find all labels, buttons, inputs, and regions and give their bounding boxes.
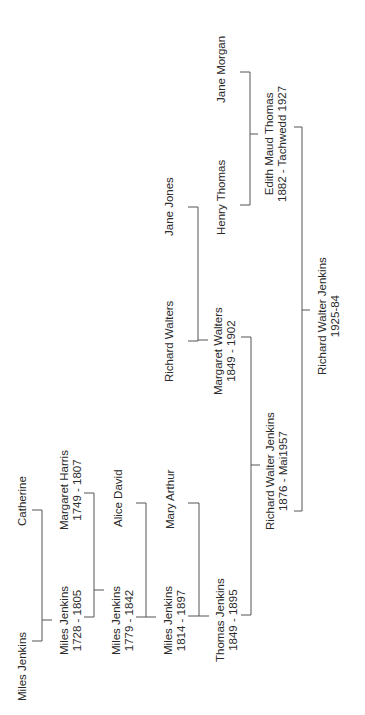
person-name: Richard Walter Jenkins — [264, 412, 277, 530]
person-name: Henry Thomas — [215, 160, 228, 235]
person-dates: 1849 - 1895 — [227, 578, 240, 662]
person-p2: Catherine — [16, 476, 29, 526]
person-name: Richard Walter Jenkins — [316, 257, 329, 375]
person-name: Catherine — [16, 476, 29, 526]
person-p11: Jane Jones — [163, 177, 176, 236]
person-name: Miles Jenkins — [162, 586, 175, 655]
person-dates: 1849 - 1902 — [225, 307, 238, 395]
person-p3: Miles Jenkins 1728 - 1805 — [58, 586, 84, 655]
person-dates: 1728 - 1805 — [71, 586, 84, 655]
person-dates: 1925-84 — [329, 257, 342, 375]
person-p13: Richard Walter Jenkins 1876 - Mai1957 — [264, 412, 290, 530]
family-tree-diagram: Miles Jenkins Catherine Miles Jenkins 17… — [0, 0, 365, 715]
person-p14: Henry Thomas — [215, 160, 228, 235]
person-p8: Mary Arthur — [164, 470, 177, 529]
person-p5: Miles Jenkins 1779 - 1842 — [110, 586, 136, 655]
person-p6: Alice David — [112, 469, 125, 527]
person-p17: Richard Walter Jenkins 1925-84 — [316, 257, 342, 375]
person-name: Miles Jenkins — [16, 632, 29, 701]
person-dates: 1876 - Mai1957 — [277, 412, 290, 530]
person-p16: Edith Maud Thomas 1882 - Tachwedd 1927 — [263, 86, 289, 202]
person-name: Margaret Harris — [58, 450, 71, 530]
person-p12: Margaret Walters 1849 - 1902 — [212, 307, 238, 395]
person-p15: Jane Morgan — [215, 36, 228, 103]
person-name: Miles Jenkins — [110, 586, 123, 655]
person-name: Alice David — [112, 469, 125, 527]
person-p10: Richard Walters — [163, 301, 176, 382]
person-name: Margaret Walters — [212, 307, 225, 395]
person-p4: Margaret Harris 1749 - 1807 — [58, 450, 84, 530]
person-name: Miles Jenkins — [58, 586, 71, 655]
person-p9: Thomas Jenkins 1849 - 1895 — [214, 578, 240, 662]
person-name: Jane Morgan — [215, 36, 228, 103]
person-name: Richard Walters — [163, 301, 176, 382]
person-name: Mary Arthur — [164, 470, 177, 529]
person-name: Edith Maud Thomas — [263, 86, 276, 202]
person-p1: Miles Jenkins — [16, 632, 29, 701]
person-name: Jane Jones — [163, 177, 176, 236]
person-dates: 1814 - 1897 — [175, 586, 188, 655]
person-dates: 1779 - 1842 — [123, 586, 136, 655]
person-name: Thomas Jenkins — [214, 578, 227, 662]
person-p7: Miles Jenkins 1814 - 1897 — [162, 586, 188, 655]
person-dates: 1882 - Tachwedd 1927 — [276, 86, 289, 202]
person-dates: 1749 - 1807 — [71, 450, 84, 530]
